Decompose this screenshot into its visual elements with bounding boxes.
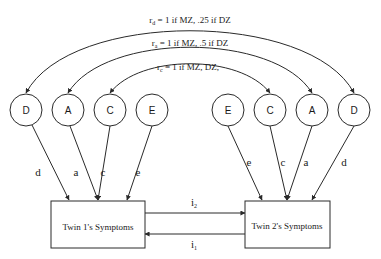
path-label-twin1-d: d xyxy=(35,166,41,178)
latent-node-twin2-d: D xyxy=(338,94,370,126)
latent-node-twin1-a: A xyxy=(52,94,84,126)
path-line-twin1-e xyxy=(127,126,152,200)
svg-text:Twin 1's Symptoms: Twin 1's Symptoms xyxy=(62,222,134,232)
svg-text:C: C xyxy=(106,105,113,116)
twin1-symptoms-box: Twin 1's Symptoms xyxy=(51,201,145,248)
svg-text:D: D xyxy=(350,105,357,116)
path-label-twin2-e: e xyxy=(247,156,252,168)
svg-text:A: A xyxy=(309,105,316,116)
correlation-label-d: rd = 1 if MZ, .25 if DZ xyxy=(149,15,230,26)
svg-text:E: E xyxy=(149,105,156,116)
svg-text:A: A xyxy=(65,105,72,116)
path-line-twin1-c xyxy=(98,126,110,200)
twin-model-diagram: rd = 1 if MZ, .25 if DZ ra = 1 if MZ, .5… xyxy=(0,0,381,259)
svg-text:E: E xyxy=(225,105,232,116)
path-line-twin2-d xyxy=(312,126,354,200)
path-line-twin1-d xyxy=(32,125,69,200)
path-label-twin2-a: a xyxy=(304,156,309,168)
latent-node-twin1-d: D xyxy=(10,94,42,126)
interaction-label-i1: i1 xyxy=(191,238,197,251)
correlation-label-c: rc = 1 if MZ, DZ, xyxy=(157,62,219,73)
svg-text:Twin 2's Symptoms: Twin 2's Symptoms xyxy=(251,221,323,231)
path-label-twin2-c: c xyxy=(281,156,286,168)
latent-node-twin2-e: E xyxy=(212,94,244,126)
interaction-label-i2: i2 xyxy=(191,196,197,209)
svg-text:D: D xyxy=(22,105,29,116)
correlation-label-a: ra = 1 if MZ, .5 if DZ xyxy=(152,38,229,49)
twin2-symptoms-box: Twin 2's Symptoms xyxy=(245,201,330,248)
path-label-twin1-e: e xyxy=(136,166,141,178)
latent-node-twin2-a: A xyxy=(296,94,328,126)
path-label-twin1-a: a xyxy=(74,166,79,178)
path-label-twin1-c: c xyxy=(101,166,106,178)
path-line-twin1-a xyxy=(70,126,98,200)
svg-text:C: C xyxy=(266,105,273,116)
latent-node-twin1-e: E xyxy=(136,94,168,126)
path-line-twin2-e xyxy=(228,126,262,200)
latent-node-twin1-c: C xyxy=(94,94,126,126)
latent-node-twin2-c: C xyxy=(254,94,286,126)
path-label-twin2-d: d xyxy=(341,156,347,168)
